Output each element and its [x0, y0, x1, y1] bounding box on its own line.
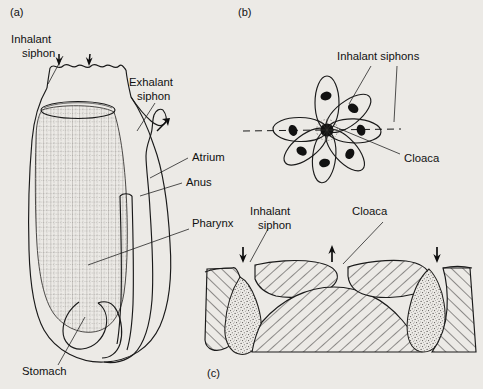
pharynx-basket — [35, 106, 127, 333]
label-inhalant-siphon-c-line2: siphon — [258, 219, 291, 231]
panel-b-letter: (b) — [238, 6, 251, 18]
figure-canvas: (a) — [0, 0, 483, 389]
label-cloaca-c: Cloaca — [352, 205, 388, 217]
diagram-svg: (a) — [0, 0, 483, 389]
label-inhalant-siphons-b: Inhalant siphons — [337, 50, 420, 62]
label-inhalant-siphon-a-line1: Inhalant — [11, 33, 52, 45]
label-exhalant-siphon-a-line1: Exhalant — [129, 76, 174, 88]
label-stomach: Stomach — [22, 365, 67, 377]
label-anus: Anus — [186, 176, 212, 188]
label-atrium: Atrium — [192, 151, 225, 163]
label-pharynx: Pharynx — [192, 217, 234, 229]
label-cloaca-b: Cloaca — [404, 152, 440, 164]
panel-a-letter: (a) — [10, 6, 23, 18]
label-inhalant-siphon-c-line1: Inhalant — [250, 205, 291, 217]
panel-c-letter: (c) — [207, 367, 220, 379]
label-inhalant-siphon-a-line2: siphon — [22, 47, 55, 59]
label-exhalant-siphon-a-line2: siphon — [137, 90, 170, 102]
